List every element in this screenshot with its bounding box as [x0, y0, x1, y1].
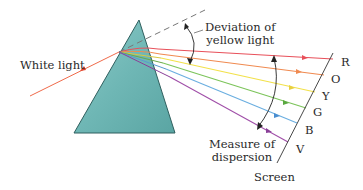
deviation-label-line1: Deviation of [205, 21, 276, 33]
spectrum-letter-v: V [296, 143, 304, 155]
spectrum-letter-g: G [313, 106, 322, 118]
spectrum-letter-r: R [341, 56, 350, 68]
dispersion-label-line1: Measure of [209, 138, 275, 150]
spectrum-letter-b: B [305, 124, 313, 136]
deviation-arc [186, 26, 194, 62]
deviation-label: Deviation of yellow light [205, 21, 276, 46]
deviation-leader-line [194, 30, 203, 33]
white-light-label: White light [20, 59, 85, 71]
prism-dispersion-diagram [0, 0, 363, 190]
spectrum-letter-y: Y [322, 90, 330, 102]
screen-line [277, 53, 333, 163]
spectrum-arrows [266, 55, 308, 133]
dispersion-arrow-bottom-icon [257, 122, 263, 130]
deviation-label-line2: yellow light [205, 34, 276, 46]
orange-arrow-icon [296, 69, 302, 74]
undeviated-ray-dashed [119, 10, 205, 52]
spectrum-letter-o: O [331, 73, 340, 85]
screen-label: Screen [254, 171, 295, 183]
prism [74, 20, 175, 133]
dispersion-label: Measure of dispersion [209, 138, 275, 163]
dispersion-label-line2: dispersion [209, 151, 275, 163]
